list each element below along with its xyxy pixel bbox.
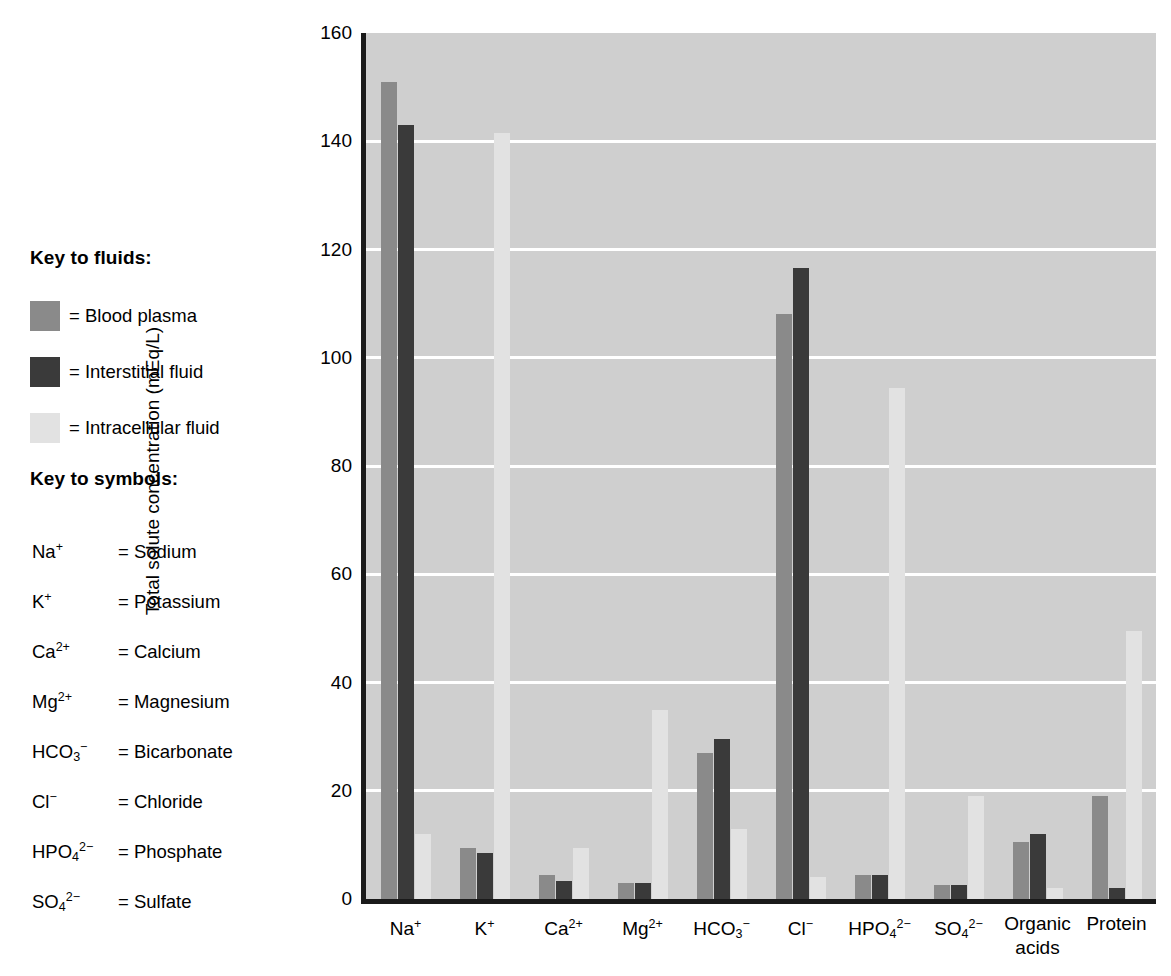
bar bbox=[460, 848, 476, 899]
bar bbox=[477, 853, 493, 899]
bar bbox=[573, 848, 589, 899]
bar-group bbox=[776, 33, 826, 899]
bar-group bbox=[697, 33, 747, 899]
bar bbox=[731, 829, 747, 899]
bar bbox=[556, 881, 572, 899]
bar bbox=[1013, 842, 1029, 899]
y-tick-label: 160 bbox=[278, 23, 352, 42]
bar bbox=[855, 875, 871, 899]
plot-area bbox=[366, 33, 1156, 899]
bar bbox=[381, 82, 397, 899]
bar-group bbox=[539, 33, 589, 899]
bar bbox=[697, 753, 713, 899]
y-axis-title: Total solute concentration (mEq/L) bbox=[142, 256, 164, 686]
bar bbox=[635, 883, 651, 899]
bar-group bbox=[1092, 33, 1142, 899]
bar bbox=[618, 883, 634, 899]
y-tick-label: 100 bbox=[278, 348, 352, 367]
bar bbox=[793, 268, 809, 899]
y-tick-label: 20 bbox=[278, 781, 352, 800]
y-tick-mark bbox=[366, 789, 375, 792]
y-tick-label: 40 bbox=[278, 673, 352, 692]
y-tick-label: 80 bbox=[278, 456, 352, 475]
y-tick-label: 60 bbox=[278, 564, 352, 583]
bar bbox=[1126, 631, 1142, 899]
bar bbox=[652, 710, 668, 899]
bar-group bbox=[460, 33, 510, 899]
bar bbox=[415, 834, 431, 899]
bar-group bbox=[381, 33, 431, 899]
bar bbox=[810, 877, 826, 899]
bar bbox=[889, 388, 905, 899]
y-tick-mark bbox=[366, 356, 375, 359]
bar-group bbox=[934, 33, 984, 899]
y-tick-mark bbox=[366, 465, 375, 468]
bar-group bbox=[618, 33, 668, 899]
y-tick-mark bbox=[366, 248, 375, 251]
y-tick-label: 0 bbox=[278, 889, 352, 908]
y-tick-mark bbox=[366, 573, 375, 576]
y-tick-label: 120 bbox=[278, 240, 352, 259]
bar bbox=[968, 796, 984, 899]
bar bbox=[951, 885, 967, 899]
bar bbox=[714, 739, 730, 899]
bar bbox=[776, 314, 792, 899]
y-axis-line bbox=[361, 33, 366, 899]
bar bbox=[494, 133, 510, 899]
bar bbox=[1109, 888, 1125, 899]
y-tick-label: 140 bbox=[278, 131, 352, 150]
bar bbox=[1092, 796, 1108, 899]
bar bbox=[1047, 888, 1063, 899]
y-tick-mark bbox=[366, 140, 375, 143]
y-tick-mark bbox=[366, 681, 375, 684]
x-axis-line bbox=[361, 899, 1156, 904]
x-category-label: Protein bbox=[1067, 912, 1166, 936]
bar bbox=[872, 875, 888, 899]
bar bbox=[934, 885, 950, 899]
bar-chart: Total solute concentration (mEq/L) 02040… bbox=[0, 0, 1171, 976]
bar bbox=[539, 875, 555, 899]
bar-group bbox=[1013, 33, 1063, 899]
bar bbox=[398, 125, 414, 899]
bar bbox=[1030, 834, 1046, 899]
bar-group bbox=[855, 33, 905, 899]
